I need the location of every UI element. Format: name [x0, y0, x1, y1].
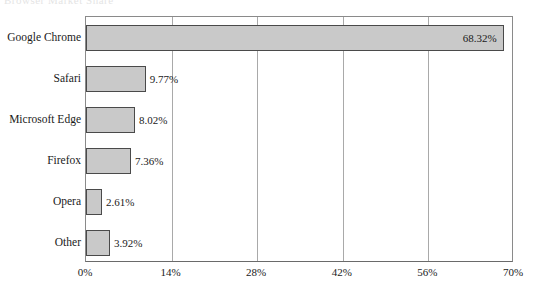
- bar-row: 9.77%: [86, 58, 512, 99]
- x-tick-label: 56%: [417, 266, 437, 278]
- bar-other[interactable]: [86, 230, 110, 256]
- x-tick-label: 70%: [503, 266, 523, 278]
- bar-opera[interactable]: [86, 189, 102, 215]
- bar-row: 8.02%: [86, 99, 512, 140]
- bar-value-label: 9.77%: [150, 73, 178, 85]
- x-tick-label: 0%: [78, 266, 93, 278]
- bar-value-label: 3.92%: [114, 237, 142, 249]
- bar-row: 2.61%: [86, 181, 512, 222]
- bar-value-label: 68.32%: [463, 32, 497, 44]
- x-tick-label: 14%: [161, 266, 181, 278]
- category-label-opera: Opera: [0, 180, 81, 221]
- bar-safari[interactable]: [86, 66, 146, 92]
- bar-firefox[interactable]: [86, 148, 131, 174]
- clipped-title-text: Browser Market Share: [4, 0, 114, 6]
- bar-row: 3.92%: [86, 222, 512, 263]
- category-label-other: Other: [0, 221, 81, 262]
- category-label-firefox: Firefox: [0, 139, 81, 180]
- x-tick-label: 28%: [246, 266, 266, 278]
- bar-value-label: 8.02%: [139, 114, 167, 126]
- bar-row: 68.32%: [86, 17, 512, 58]
- bar-value-label: 7.36%: [135, 155, 163, 167]
- category-label-google-chrome: Google Chrome: [0, 16, 81, 57]
- bar-microsoft-edge[interactable]: [86, 107, 135, 133]
- plot-area: 68.32%9.77%8.02%7.36%2.61%3.92%: [85, 16, 513, 262]
- bar-row: 7.36%: [86, 140, 512, 181]
- bar-chart: Browser Market Share Google ChromeSafari…: [0, 0, 534, 295]
- bar-value-label: 2.61%: [106, 196, 134, 208]
- category-label-safari: Safari: [0, 57, 81, 98]
- category-label-microsoft-edge: Microsoft Edge: [0, 98, 81, 139]
- x-tick-label: 42%: [332, 266, 352, 278]
- bar-google-chrome[interactable]: 68.32%: [86, 25, 504, 51]
